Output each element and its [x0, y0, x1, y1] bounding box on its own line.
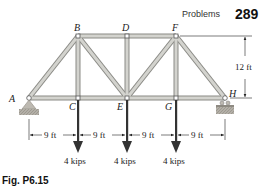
- label-c: C: [69, 101, 76, 112]
- label-d: D: [121, 22, 130, 33]
- dim-gh: 9 ft: [191, 130, 204, 140]
- truss-diagram: Problems 289: [0, 0, 270, 190]
- dim-ce: 9 ft: [93, 130, 106, 140]
- load-label-g: 4 kips: [163, 156, 185, 166]
- label-f: F: [171, 22, 179, 33]
- label-e: E: [116, 101, 123, 112]
- load-label-e: 4 kips: [114, 156, 136, 166]
- dim-eg: 9 ft: [142, 130, 155, 140]
- label-a: A: [8, 93, 16, 104]
- label-b: B: [74, 22, 80, 33]
- load-labels: 4 kips 4 kips 4 kips: [64, 156, 185, 166]
- arrow-down-icon: [171, 141, 181, 153]
- figure-caption: Fig. P6.15: [2, 175, 49, 186]
- truss-members: [29, 36, 225, 98]
- page-number: 289: [235, 6, 259, 22]
- label-g: G: [165, 101, 172, 112]
- pin-support-a: [19, 100, 39, 115]
- dim-height: 12 ft: [235, 62, 252, 72]
- arrow-down-icon: [73, 141, 83, 153]
- roller-support-h: [216, 101, 234, 114]
- label-h: H: [228, 88, 237, 99]
- section-title: Problems: [182, 9, 221, 19]
- dim-ac: 9 ft: [44, 130, 57, 140]
- arrow-down-icon: [122, 141, 132, 153]
- load-label-c: 4 kips: [64, 156, 86, 166]
